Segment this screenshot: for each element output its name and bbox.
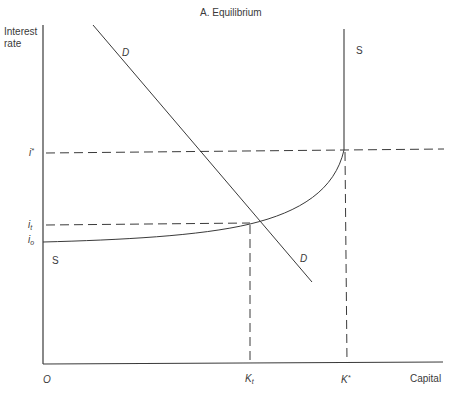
origin-label: O [43,375,51,385]
k-t-subscript: t [252,378,254,385]
demand-label-bottom: D [300,254,307,264]
i-t-subscript: t [30,224,32,231]
demand-curve [93,25,312,282]
x-axis-label: Capital [410,374,441,384]
y-tick-i-t: it [28,220,32,231]
k-star-superscript: * [348,374,351,381]
demand-label-top: D [122,48,129,58]
x-axis [43,362,443,364]
y-axis-label-line1: Interest [4,27,37,37]
y-axis-label-line2: rate [4,39,21,49]
supply-label-top: S [356,46,363,56]
i-0-subscript: o [30,239,34,246]
supply-curve [43,150,344,242]
x-tick-k-star: K* [341,374,350,385]
y-tick-i-star: i* [29,147,34,158]
k-t-label: K [245,373,252,384]
y-tick-i-0: io [28,235,34,246]
i-star-dashed-line [46,149,444,153]
k-star-label: K [341,374,348,385]
k-star-dashed-line [345,152,347,362]
x-tick-k-t: Kt [245,374,254,385]
supply-label-bottom: S [52,256,59,266]
equilibrium-diagram [0,0,464,404]
i-t-dashed-line [46,223,250,225]
chart-title: A. Equilibrium [200,8,262,18]
i-star-superscript: * [31,147,34,154]
